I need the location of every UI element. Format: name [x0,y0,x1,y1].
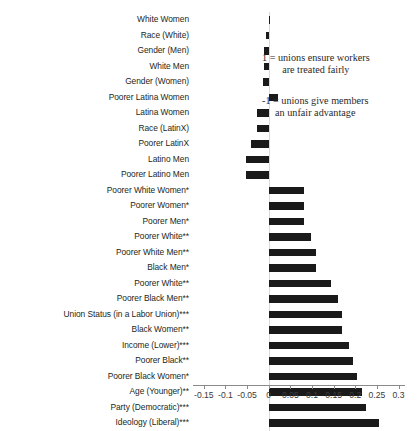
annotation-positive-meaning: 1 = unions ensure workers are treated fa… [262,52,370,77]
x-axis-tick-label: 0.1 [306,390,318,400]
bar [269,280,332,288]
bar [269,202,304,210]
bar-row [193,307,405,323]
x-axis-tick-mark [290,386,291,389]
bar-row [193,400,405,416]
bar [246,156,269,164]
category-label: Poorer White** [0,276,193,292]
annotation-positive-line2: are treated fairly [262,64,370,76]
annotation-negative-meaning: -1 = unions give members an unfair advan… [262,95,368,120]
x-axis-tick-label: 0.15 [325,390,342,400]
x-axis-tick-mark [312,386,313,389]
category-label: Ideology (Liberal)*** [0,415,193,431]
bar-row [193,291,405,307]
x-axis-tick-mark [334,386,335,389]
bar-row [193,12,405,28]
x-axis-tick-label: -0.1 [218,390,233,400]
bar [269,233,311,241]
x-axis-tick-label: 0 [266,390,271,400]
bar-row [193,229,405,245]
bar [251,140,269,148]
bar [269,419,380,427]
bar [257,125,269,133]
category-label: Latino Men [0,152,193,168]
category-label: Poorer White** [0,229,193,245]
bar [269,311,343,319]
bar [269,357,353,365]
category-label: Black Women** [0,322,193,338]
bar [269,295,338,303]
category-label: Race (LatinX) [0,121,193,137]
category-label: White Men [0,59,193,75]
category-label: Poorer LatinX [0,136,193,152]
bar-row [193,136,405,152]
category-label: Gender (Men) [0,43,193,59]
x-axis-tick-mark [399,386,400,389]
x-axis-tick-label: 0.25 [369,390,386,400]
bar [246,171,269,179]
category-label: White Women [0,12,193,28]
x-axis-tick-label: 0.05 [282,390,299,400]
category-label: Poorer Women* [0,198,193,214]
bar-row [193,260,405,276]
bar-row [193,214,405,230]
category-label: Union Status (in a Labor Union)*** [0,307,193,323]
category-label: Latina Women [0,105,193,121]
category-label: Poorer Black** [0,353,193,369]
category-label: Poorer Latino Men [0,167,193,183]
x-axis-tick-label: 0.3 [393,390,405,400]
category-label: Race (White) [0,28,193,44]
bar-row [193,322,405,338]
x-axis-tick-mark [355,386,356,389]
category-label: Poorer White Men** [0,245,193,261]
category-label: Poorer Men* [0,214,193,230]
x-axis-tick-label: -0.15 [194,390,214,400]
annotation-positive-line1: 1 = unions ensure workers [262,52,370,64]
bar-row [193,28,405,44]
bar-row [193,369,405,385]
bar [263,78,269,86]
x-axis-tick-mark [204,386,205,389]
category-label: Poorer White Women* [0,183,193,199]
bar-row [193,152,405,168]
bar [269,326,343,334]
bar [269,249,317,257]
category-label: Poorer Black Men** [0,291,193,307]
bar [269,404,366,412]
x-axis-tick-mark [225,386,226,389]
x-axis-tick-mark [269,386,270,389]
category-label: Poorer Latina Women [0,90,193,106]
category-label: Party (Democratic)*** [0,400,193,416]
bar-row [193,121,405,137]
bar-row [193,276,405,292]
bar [269,373,357,381]
bar [269,16,271,24]
x-axis-tick-label: -0.05 [237,390,257,400]
bar-row [193,415,405,431]
bar-row [193,183,405,199]
bar [269,264,317,272]
bar [269,187,304,195]
x-axis-tick-mark [377,386,378,389]
bar-row [193,198,405,214]
annotation-negative-line1: -1 = unions give members [262,95,368,107]
category-label: Black Men* [0,260,193,276]
bar-row [193,353,405,369]
bar-row [193,245,405,261]
category-label: Poorer Black Women* [0,369,193,385]
category-label: Gender (Women) [0,74,193,90]
category-labels-axis: White WomenRace (White)Gender (Men)White… [0,12,193,431]
bar-row [193,338,405,354]
bar [266,32,269,40]
category-label: Income (Lower)*** [0,338,193,354]
annotation-negative-line2: an unfair advantage [262,107,368,119]
x-axis-tick-mark [247,386,248,389]
category-label: Age (Younger)** [0,384,193,400]
bar-row [193,167,405,183]
bar [269,342,349,350]
x-axis-tick-label: 0.2 [349,390,361,400]
bar [269,218,304,226]
